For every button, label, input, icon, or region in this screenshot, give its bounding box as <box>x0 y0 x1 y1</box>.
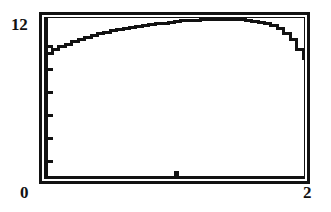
y-axis-max-label: 12 <box>11 16 27 33</box>
x-axis-max-label: 2 <box>303 184 311 201</box>
y-axis-ticks <box>48 45 53 163</box>
x-axis-spine <box>45 176 305 179</box>
calculator-plot-figure: 12 0 2 <box>0 0 331 212</box>
y-axis-spine <box>45 17 48 179</box>
x-axis-ticks <box>174 171 179 176</box>
x-axis-min-label: 0 <box>20 184 28 201</box>
plot-canvas <box>0 0 331 212</box>
plot-frame-inner <box>45 18 305 179</box>
data-curve <box>46 20 303 60</box>
